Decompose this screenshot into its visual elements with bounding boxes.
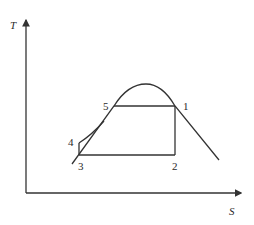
point-3-label: 3 bbox=[78, 160, 84, 172]
point-5-label: 5 bbox=[103, 100, 109, 112]
y-axis-label: T bbox=[10, 19, 17, 31]
saturation-curve bbox=[72, 84, 219, 164]
point-2-label: 2 bbox=[172, 160, 178, 172]
point-1-label: 1 bbox=[183, 100, 189, 112]
point-4-label: 4 bbox=[68, 136, 74, 148]
process-4-5 bbox=[79, 121, 104, 143]
ts-diagram: T S 5 1 2 3 4 bbox=[0, 0, 254, 225]
x-axis-label: S bbox=[229, 205, 235, 217]
